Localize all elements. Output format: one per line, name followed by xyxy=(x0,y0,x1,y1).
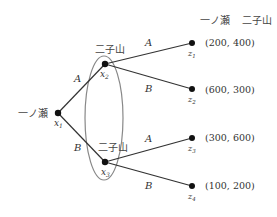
player-label-x2: 二子山 xyxy=(95,44,125,55)
edge-label-x1-x3: B xyxy=(73,142,81,153)
edge-label-x2-z2: B xyxy=(144,83,152,94)
terminal-label-z4: z4 xyxy=(187,192,196,202)
terminal-label-z2: z2 xyxy=(187,95,196,105)
edge-x1-x3 xyxy=(58,113,105,162)
header-player1: 一ノ瀬 xyxy=(200,15,230,26)
player-label-x1: 一ノ瀬 xyxy=(18,108,48,119)
node-label-x3: x3 xyxy=(101,167,110,178)
edge-label-x3-z3: A xyxy=(144,133,152,144)
edge-label-x2-z1: A xyxy=(144,37,152,48)
payoff-z3: (300, 600) xyxy=(205,132,255,143)
node-label-x1: x1 xyxy=(54,118,63,129)
node-x3 xyxy=(102,159,108,165)
game-tree-diagram: 一ノ瀬 二子山 一ノ瀬 二子山 二子山 x1 x2 x3 A B A B A B… xyxy=(0,0,277,217)
node-z2 xyxy=(189,86,195,92)
node-z3 xyxy=(189,135,195,141)
node-label-x2: x2 xyxy=(100,69,109,80)
node-z4 xyxy=(189,183,195,189)
edges xyxy=(58,43,192,186)
header-player2: 二子山 xyxy=(242,15,272,26)
terminal-label-z3: z3 xyxy=(187,144,196,154)
payoff-z1: (200, 400) xyxy=(205,37,255,48)
node-x2 xyxy=(102,61,108,67)
node-x1 xyxy=(55,110,61,116)
payoff-z4: (100, 200) xyxy=(205,180,255,191)
terminal-label-z1: z1 xyxy=(187,49,196,59)
edge-x1-x2 xyxy=(58,64,105,113)
edge-label-x1-x2: A xyxy=(73,73,81,84)
payoff-z2: (600, 300) xyxy=(205,84,255,95)
edge-label-x3-z4: B xyxy=(144,180,152,191)
player-label-x3: 二子山 xyxy=(98,142,128,153)
node-z1 xyxy=(189,40,195,46)
